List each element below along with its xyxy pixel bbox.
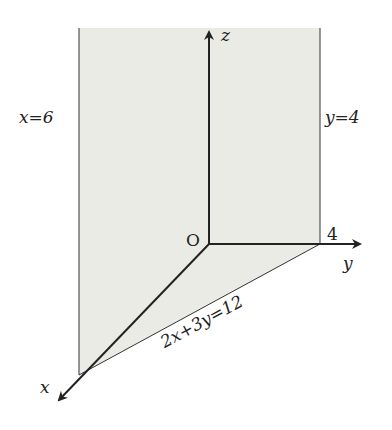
plane-x6-label: x=6	[19, 109, 54, 126]
y-intercept-label: 4	[327, 226, 338, 243]
origin-label: O	[186, 232, 200, 249]
diagram-svg	[0, 0, 392, 430]
x-axis-label: x	[40, 379, 50, 396]
diagram-canvas: z x=6 y=4 O 4 y x 2x+3y=12	[0, 0, 392, 430]
z-axis-label: z	[221, 27, 230, 44]
plane-y4-label: y=4	[325, 109, 360, 126]
y-axis-label: y	[343, 255, 353, 272]
